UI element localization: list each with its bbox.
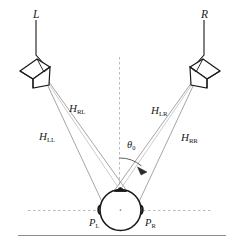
loudspeaker-right (190, 20, 220, 88)
label-path-HRR-base: H (181, 131, 189, 143)
label-ear-PR: PR (145, 218, 156, 229)
ray-HRR (137, 84, 194, 206)
label-path-HRL-sub: RL (77, 108, 85, 115)
speaker-right-suspension-line (196, 20, 204, 64)
label-angle-theta0: θ0 (127, 140, 135, 151)
label-path-HRR-sub: RR (189, 137, 198, 144)
label-path-HRR: HRR (181, 132, 198, 143)
label-path-HLR-sub: LR (159, 110, 167, 117)
diagram-canvas (0, 0, 239, 241)
label-source-right: R (201, 9, 208, 21)
speaker-left-suspension-line (36, 20, 44, 64)
label-source-left: L (33, 9, 39, 21)
label-path-HLL-sub: LL (47, 136, 55, 143)
label-ear-PL: PL (89, 218, 99, 229)
label-angle-sub: 0 (132, 144, 135, 151)
label-ear-PL-sub: L (95, 222, 99, 229)
label-path-HRL: HRL (69, 103, 85, 114)
label-path-HLL-base: H (39, 130, 47, 142)
angle-arrowhead-icon (138, 167, 148, 175)
label-path-HLR-base: H (151, 104, 159, 116)
listener-head (98, 188, 142, 231)
head-center-point (120, 209, 122, 211)
figure-binaural-crosstalk-geometry: L R HLL HRL HLR HRR θ0 PL PR (0, 0, 239, 241)
ray-HRL (49, 82, 137, 205)
angle-indicator (120, 158, 148, 175)
ray-HLR (104, 82, 192, 205)
label-ear-PR-sub: R (151, 222, 155, 229)
angle-arc-theta0 (120, 158, 142, 166)
label-path-HRL-base: H (69, 102, 77, 114)
label-path-HLL: HLL (39, 131, 55, 142)
ray-helper-left (48, 83, 120, 190)
loudspeaker-left (20, 20, 50, 88)
label-path-HLR: HLR (151, 105, 167, 116)
